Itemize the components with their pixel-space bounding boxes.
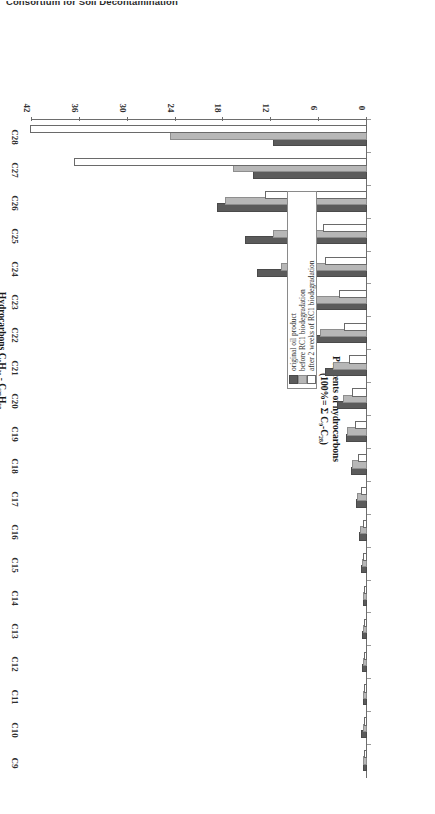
category-label: C16 [10,517,20,547]
category-tick [367,547,371,548]
category-label: C25 [10,221,20,251]
category-tick [367,119,371,120]
page-title: Consortium for Soil Decontamination [6,0,306,7]
category-tick [367,613,371,614]
category-label: C13 [10,616,20,646]
bar [30,125,367,133]
category-label: C12 [10,649,20,679]
bar [355,421,367,429]
legend-label: after 2 weeks of RC1 biodegradation [307,260,316,371]
bar-group [32,449,367,482]
legend-label: before RC1 biodegradation [298,289,307,371]
bar-group [32,646,367,679]
bar [323,224,367,232]
bar-group [32,712,367,745]
category-label: C22 [10,320,20,350]
bar [74,158,367,166]
legend-item: after 2 weeks of RC1 biodegradation [307,196,315,384]
bar [363,553,367,561]
bar [358,454,367,462]
category-label: C27 [10,155,20,185]
chart-figure: Hydrocarbons C₉H₂₀ - C₂₈H₅₈ Per cents of… [0,14,435,804]
legend-items: original oil productbefore RC1 biodegrad… [288,192,316,388]
category-tick [367,448,371,449]
bar-group [32,153,367,186]
legend-item: original oil product [289,196,297,384]
value-tick-label: 6 [309,93,319,123]
category-label: C18 [10,451,20,481]
bar-group [32,120,367,153]
bar [364,619,367,627]
chart-canvas: Hydrocarbons C₉H₂₀ - C₂₈H₅₈ Per cents of… [0,14,435,804]
bar-group [32,515,367,548]
category-tick [367,382,371,383]
value-tick-label: 24 [166,93,176,123]
category-label: C20 [10,386,20,416]
bar-group [32,548,367,581]
category-label: C19 [10,419,20,449]
bar [364,717,367,725]
category-tick [367,218,371,219]
category-label: C17 [10,484,20,514]
bar [344,323,367,331]
bar [349,355,367,363]
value-tick-label: 30 [118,93,128,123]
value-tick-label: 12 [261,93,271,123]
value-tick-label: 42 [22,93,32,123]
bar [364,684,367,692]
bar [352,388,367,396]
bar [364,750,367,758]
value-tick-label: 18 [213,93,223,123]
category-label: C10 [10,715,20,745]
category-tick [367,251,371,252]
bar-group [32,581,367,614]
chart-legend: original oil productbefore RC1 biodegrad… [287,191,317,389]
category-label: C23 [10,287,20,317]
bar [361,487,367,495]
bar [363,520,367,528]
category-tick [367,744,371,745]
value-tick-label: 0 [357,93,367,123]
legend-swatch [307,375,316,384]
category-tick [367,645,371,646]
category-axis-title: Hydrocarbons C₉H₂₀ - C₂₈H₅₈ [0,292,7,409]
category-label: C14 [10,583,20,613]
value-tick-label: 36 [70,93,80,123]
bar-group [32,482,367,515]
bar-group [32,745,367,778]
category-tick [367,514,371,515]
category-tick [367,580,371,581]
category-label: C15 [10,550,20,580]
legend-item: before RC1 biodegradation [298,196,306,384]
category-tick [367,185,371,186]
legend-swatch [289,375,298,384]
category-label: C9 [10,748,20,778]
category-label: C26 [10,188,20,218]
bar [339,290,367,298]
bar [364,652,367,660]
category-tick [367,152,371,153]
category-tick [367,415,371,416]
category-label: C28 [10,122,20,152]
category-label: C24 [10,254,20,284]
category-tick [367,711,371,712]
category-label: C11 [10,682,20,712]
legend-swatch [298,375,307,384]
legend-label: original oil product [289,313,298,371]
category-tick [367,284,371,285]
category-tick [367,316,371,317]
category-label: C21 [10,353,20,383]
bar [325,257,367,265]
category-tick [367,481,371,482]
category-tick [367,349,371,350]
bar-group [32,679,367,712]
bar-group [32,416,367,449]
category-tick [367,678,371,679]
bar-group [32,614,367,647]
bar [364,586,367,594]
